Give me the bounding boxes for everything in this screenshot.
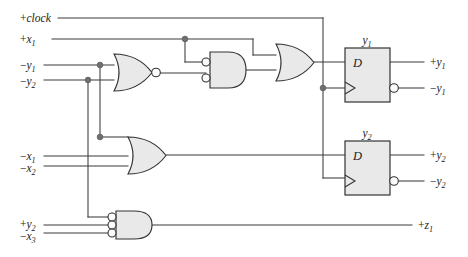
and-bot-input-bubble-2 [108,221,116,229]
nor-output-bubble [152,68,161,77]
junction-clock-ff1 [320,85,326,91]
junction-ny1 [97,62,103,68]
flipflop-y2-qbar-bubble [390,177,399,186]
wire-group-ff-outputs [390,62,424,181]
wire-group-ny2 [44,80,114,217]
output-label-ny2: −y2 [430,175,446,190]
and-bot-input-bubble-3 [108,229,116,237]
junction-ny2 [85,77,91,83]
circuit-diagram: +clock +x1 −y1 −y2 −x1 −x2 +y2 −x3 +y1 −… [0,0,468,257]
output-label-ny1: −y1 [430,82,446,97]
wire-group-ny1 [44,65,128,137]
or-gate-top [276,44,314,81]
output-label-pz1: +z1 [418,219,433,234]
and-bot-input-bubble-1 [108,213,116,221]
input-label-clock: +clock [20,12,52,24]
and-mid-input-bubble-2 [202,74,210,82]
wire-group-and-bot [44,225,412,233]
or-gate-top-body [276,44,314,81]
or-gate-mid-body [128,137,166,174]
flipflop-y2-d-label: D [352,149,362,163]
nor-gate-body [114,54,152,91]
input-label-x1: +x1 [20,33,36,48]
nor-gate-y1y2 [114,54,160,91]
circuit-svg: +clock +x1 −y1 −y2 −x1 −x2 +y2 −x3 +y1 −… [0,0,468,257]
output-label-py2: +y2 [430,149,446,164]
input-label-ny2: −y2 [20,75,36,90]
flipflop-y2-label: y2 [361,127,371,142]
and-mid-input-bubble-1 [202,58,210,66]
flipflop-y2-box [345,141,390,195]
output-label-py1: +y1 [430,56,446,71]
input-label-ny1: −y1 [20,59,36,74]
flipflop-y1-d-label: D [352,56,362,70]
wire-group-or-mid [44,155,345,166]
junction-ny1-or-mid [97,134,103,140]
or-gate-mid [128,137,166,174]
flipflop-y1-box [345,48,390,102]
junction-x1 [182,36,188,42]
flipflop-y1-label: y1 [361,34,371,49]
and-gate-mid-body [210,52,246,88]
wire-group-clock [58,18,345,178]
flipflop-y1-qbar-bubble [390,84,399,93]
and-gate-bot-body [116,211,152,239]
and-gate-bot [108,211,152,239]
and-gate-mid [202,52,246,88]
